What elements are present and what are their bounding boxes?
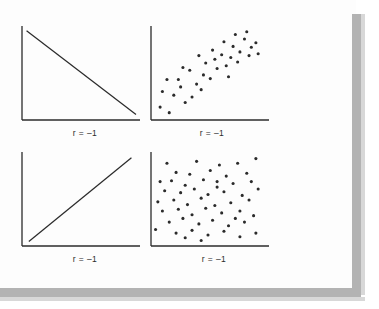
scatter-point [250, 46, 253, 49]
scatter-point [229, 56, 232, 59]
scatter-point [159, 180, 162, 183]
scatter-point [168, 221, 171, 224]
scatter-point [234, 33, 237, 36]
scatter-point [202, 73, 205, 76]
scatter-point [250, 180, 253, 183]
plot-top-right [143, 24, 273, 128]
scatter-point [222, 230, 225, 233]
scatter-point [172, 198, 175, 201]
scatter-point [254, 41, 257, 44]
panel-label-bottom-left: r = –1 [14, 254, 150, 264]
scatter-point [188, 69, 191, 72]
scatter-point [172, 94, 175, 97]
panel-label-top-left: r = –1 [14, 128, 150, 138]
scatter-point [241, 194, 244, 197]
scatter-point [247, 54, 250, 57]
scatter-point [204, 61, 207, 64]
scatter-point [165, 162, 168, 165]
panel-label-bottom-right: r = –1 [143, 254, 279, 264]
scatter-point [216, 180, 219, 183]
scatter-point [236, 60, 239, 63]
scatter-point [154, 228, 157, 231]
panel-top-right: r = –1 [143, 24, 273, 149]
scatter-point [238, 209, 241, 212]
page-shadow-right-soft [361, 14, 365, 295]
scatter-point [202, 178, 205, 181]
scatter-point [175, 232, 178, 235]
scatter-point [257, 52, 260, 55]
scatter-point [225, 175, 228, 178]
scatter-point [179, 85, 182, 88]
scatter-point [216, 67, 219, 70]
scatter-point [257, 187, 260, 190]
scatter-point [225, 64, 228, 67]
trend-line [29, 158, 132, 242]
figure-root: r = –1 r = –1 r = –1 r = –1 [0, 0, 379, 309]
panel-bottom-right: r = –1 [143, 150, 273, 275]
scatter-point [179, 191, 182, 194]
scatter-point [181, 217, 184, 220]
scatter-point [220, 211, 223, 214]
scatter-point [193, 187, 196, 190]
scatter-point [206, 233, 209, 236]
scatter-point [165, 78, 168, 81]
scatter-point [227, 224, 230, 227]
scatter-point [181, 66, 184, 69]
scatter-point [238, 235, 241, 238]
scatter-point [195, 83, 198, 86]
plot-bottom-left [14, 150, 144, 254]
scatter-point [170, 179, 173, 182]
scatter-point [229, 201, 232, 204]
scatter-point [188, 173, 191, 176]
scatter-point [209, 169, 212, 172]
trend-line [27, 31, 136, 115]
panel-label-top-right: r = –1 [143, 128, 277, 138]
scatter-point [184, 236, 187, 239]
scatter-point [177, 208, 180, 211]
scatter-point [184, 184, 187, 187]
scatter-point [161, 90, 164, 93]
scatter-point [200, 88, 203, 91]
scatter-point [161, 209, 164, 212]
panel-bottom-left: r = –1 [14, 150, 144, 275]
scatter-point [222, 40, 225, 43]
page-shadow-bottom-soft [0, 297, 365, 301]
scatter-point [200, 239, 203, 242]
scatter-point [211, 219, 214, 222]
scatter-point [213, 204, 216, 207]
scatter-point [163, 189, 166, 192]
scatter-point [252, 214, 255, 217]
scatter-point [254, 157, 257, 160]
scatter-point [168, 111, 171, 114]
scatter-point [234, 217, 237, 220]
scatter-point [159, 106, 162, 109]
scatter-point [245, 30, 248, 33]
scatter-point [200, 197, 203, 200]
panel-top-left: r = –1 [14, 24, 144, 149]
scatter-point [197, 222, 200, 225]
scatter-point [238, 50, 241, 53]
scatter-point [156, 200, 159, 203]
scatter-point [254, 232, 257, 235]
scatter-point [190, 95, 193, 98]
scatter-point [243, 37, 246, 40]
page-shadow-bottom [0, 288, 361, 297]
scatter-point [175, 171, 178, 174]
scatter-point [220, 53, 223, 56]
scatter-point [236, 162, 239, 165]
plot-bottom-right [143, 150, 273, 254]
scatter-point [177, 78, 180, 81]
scatter-point [222, 190, 225, 193]
scatter-point [190, 229, 193, 232]
scatter-point [195, 160, 198, 163]
scatter-point [216, 186, 219, 189]
scatter-point [209, 77, 212, 80]
scatter-point [184, 101, 187, 104]
scatter-point [204, 207, 207, 210]
scatter-point [211, 49, 214, 52]
scatter-point [218, 163, 221, 166]
scatter-point [247, 198, 250, 201]
plot-top-left [14, 24, 144, 128]
scatter-point [197, 54, 200, 57]
scatter-point [243, 221, 246, 224]
